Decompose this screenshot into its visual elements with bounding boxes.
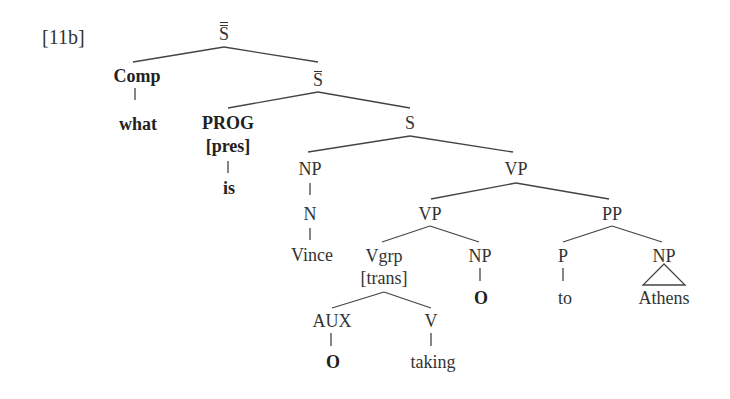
leaf-athens: Athens	[639, 288, 690, 308]
leaf-to: to	[558, 288, 572, 308]
node-vp-inner: VP	[418, 204, 441, 224]
node-n: N	[304, 204, 317, 224]
leaf-vince: Vince	[291, 245, 333, 265]
node-label: S	[219, 24, 229, 44]
node-vp-top: VP	[504, 159, 527, 179]
leaf-object-o: O	[474, 288, 488, 308]
node-aux: AUX	[313, 311, 352, 331]
leaf-is: is	[223, 178, 235, 198]
node-s: S	[405, 113, 415, 133]
node-prog: PROG	[202, 113, 254, 133]
tree-branches	[0, 0, 730, 399]
example-number: [11b]	[42, 26, 85, 49]
node-comp: Comp	[113, 66, 160, 86]
syntax-tree-diagram: [11b] S Comp what S PROG [pres] is S NP …	[0, 0, 730, 399]
leaf-what: what	[119, 114, 157, 134]
node-v: V	[425, 311, 438, 331]
node-label: S	[313, 70, 323, 90]
node-object-np: NP	[468, 246, 491, 266]
leaf-aux-o: O	[326, 352, 340, 372]
leaf-taking: taking	[411, 352, 456, 372]
node-p: P	[558, 246, 568, 266]
feature-trans: [trans]	[361, 268, 408, 288]
feature-pres: [pres]	[206, 136, 251, 156]
node-s-bar: S	[313, 70, 323, 90]
node-pp-np: NP	[652, 246, 675, 266]
node-s-double-bar: S	[219, 24, 229, 44]
node-pp: PP	[602, 204, 622, 224]
node-vgrp: Vgrp	[366, 246, 403, 266]
node-subject-np: NP	[298, 159, 321, 179]
